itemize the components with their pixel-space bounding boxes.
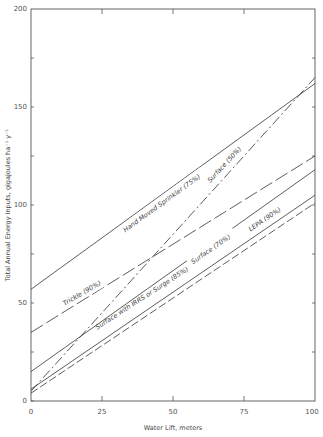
y-tick-label: 0 — [23, 397, 27, 405]
x-tick-label: 100 — [305, 408, 318, 416]
series-line-trickle-90 — [31, 156, 315, 332]
y-tick-label: 150 — [14, 103, 27, 111]
y-tick-label: 100 — [14, 201, 27, 209]
energy-vs-water-lift-chart: 0 50 100 150 200 0 25 50 75 100 Water Li… — [0, 0, 323, 437]
x-tick-label: 25 — [98, 408, 107, 416]
y-axis — [31, 58, 315, 401]
series-label-hand-moved-sprinkler: Hand Moved Sprinkler (75%) — [122, 173, 202, 234]
plot-frame — [31, 9, 315, 401]
y-tick-label: 200 — [14, 5, 27, 13]
series-label-trickle-90: Trickle (90%) — [62, 279, 103, 307]
y-axis-title: Total Annual Energy Inputs, gigajoules h… — [4, 128, 12, 282]
x-axis-title: Water Lift, meters — [144, 424, 203, 432]
series-label-surface-50: Surface (50%) — [206, 145, 243, 184]
series-line-surface-50 — [31, 78, 315, 392]
series-line-hand-moved-sprinkler — [31, 84, 315, 290]
series-label-surface-irrs-surge-85: Surface with IRRS or Surge (85%) — [94, 265, 190, 331]
x-tick-label: 75 — [240, 408, 249, 416]
y-tick-label: 50 — [18, 299, 27, 307]
x-axis — [102, 9, 244, 401]
series-lines — [31, 78, 315, 394]
x-tick-label: 50 — [169, 408, 178, 416]
series-label-surface-70: Surface (70%) — [190, 233, 233, 266]
x-tick-label: 0 — [29, 408, 33, 416]
